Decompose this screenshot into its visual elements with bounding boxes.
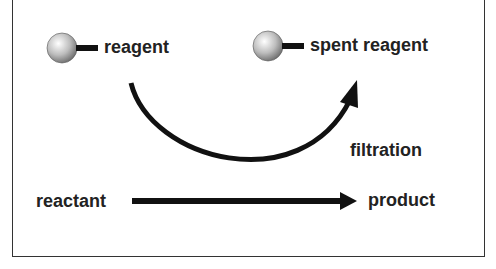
- reagent-sphere-icon: [47, 33, 98, 63]
- reagent-label: reagent: [104, 37, 169, 58]
- spent-reagent-sphere-icon: [253, 31, 304, 61]
- filtration-label: filtration: [350, 140, 422, 161]
- curved-arrow-icon: [131, 80, 358, 160]
- product-label: product: [368, 190, 435, 211]
- reactant-label: reactant: [36, 191, 106, 212]
- straight-arrow-icon: [132, 192, 357, 210]
- spent-reagent-label: spent reagent: [310, 35, 428, 56]
